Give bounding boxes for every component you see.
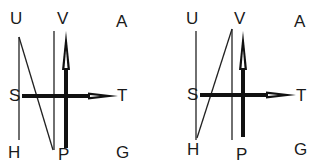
label-s: S	[187, 85, 198, 104]
label-v: V	[57, 9, 69, 28]
label-u: U	[186, 9, 198, 28]
left-panel: U V A S T H P G	[8, 9, 129, 164]
label-s: S	[9, 86, 20, 105]
label-p: P	[236, 145, 247, 164]
label-p: P	[58, 145, 69, 164]
diagonal-line	[197, 29, 232, 138]
label-g: G	[116, 143, 129, 162]
diagonal-line	[19, 37, 53, 150]
label-a: A	[116, 12, 128, 31]
right-panel: U V A S T H P G	[186, 9, 307, 164]
label-v: V	[234, 9, 246, 28]
label-t: T	[117, 86, 127, 105]
label-h: H	[187, 140, 199, 159]
label-u: U	[10, 9, 22, 28]
label-g: G	[294, 140, 307, 159]
diagram-figure: U V A S T H P G U V A S T H P G	[0, 0, 318, 166]
label-a: A	[294, 12, 306, 31]
label-t: T	[296, 86, 306, 105]
label-h: H	[8, 143, 20, 162]
